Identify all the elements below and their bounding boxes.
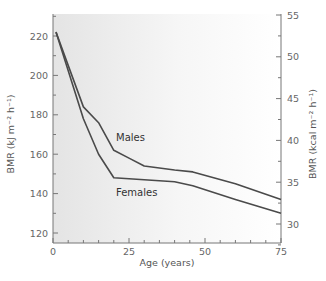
y-left-tick-label: 200: [30, 70, 48, 81]
y-left-tick-label: 120: [30, 228, 48, 239]
y-left-tick-label: 220: [30, 31, 48, 42]
y-right-tick-label: 40: [287, 135, 299, 146]
x-tick-label: 75: [275, 246, 287, 257]
y-left-tick-label: 140: [30, 188, 48, 199]
bmr-age-chart: 120140160180200220 303540455055 0255075 …: [0, 0, 326, 281]
males-label: Males: [116, 132, 145, 143]
y-right-tick-label: 50: [287, 51, 299, 62]
x-tick-label: 25: [123, 246, 135, 257]
x-axis-title: Age (years): [140, 257, 195, 268]
y-right-tick-label: 45: [287, 93, 299, 104]
x-tick-label: 50: [199, 246, 211, 257]
y-left-tick-label: 160: [30, 149, 48, 160]
x-tick-label: 0: [50, 246, 56, 257]
y-axis-left-title: BMR (kJ m⁻² h⁻¹): [5, 94, 16, 173]
y-right-tick-label: 35: [287, 177, 299, 188]
y-right-tick-label: 55: [287, 10, 299, 21]
y-axis-right-title: BMR (kcal m⁻² h⁻¹): [307, 89, 318, 179]
y-left-tick-label: 180: [30, 109, 48, 120]
females-label: Females: [116, 187, 157, 198]
y-right-tick-label: 30: [287, 219, 299, 230]
